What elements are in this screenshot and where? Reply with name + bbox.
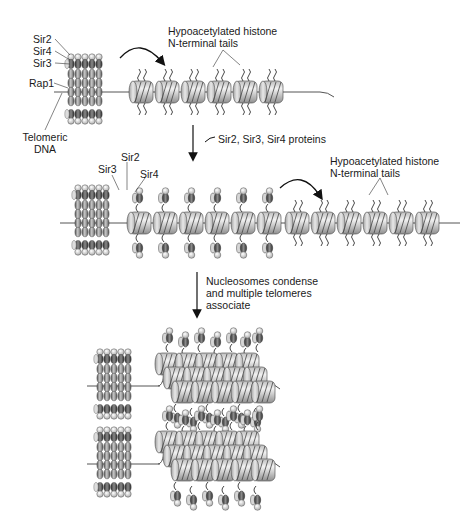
sir-complex <box>163 406 173 430</box>
sir-complex <box>163 328 173 352</box>
nucleosome-free <box>285 212 309 234</box>
sir-complex <box>185 234 195 258</box>
nucleosome <box>129 81 153 103</box>
label-step-condense-2: and multiple telomeres <box>206 287 312 299</box>
sir-complex <box>211 410 221 434</box>
sir-complex <box>133 188 143 212</box>
stage2-telomere <box>60 185 460 258</box>
sir-complex <box>263 234 273 258</box>
nucleosome-sir-bound <box>231 212 255 234</box>
label-sir2-stage1: Sir2 <box>33 33 52 45</box>
sir-complex <box>251 486 261 510</box>
label-sir3-stage2: Sir3 <box>98 163 117 175</box>
label-sir3-stage1: Sir3 <box>33 57 52 69</box>
label-sir4-stage2: Sir4 <box>140 168 159 180</box>
sir-complex <box>211 332 221 356</box>
nucleosome <box>181 81 205 103</box>
label-step-condense-1: Nucleosomes condense <box>206 275 318 287</box>
sir-complex <box>179 410 189 434</box>
label-hypoacetylated-tails-2b: N-terminal tails <box>330 167 400 179</box>
sir-complex <box>253 328 263 352</box>
sir-complex <box>159 234 169 258</box>
label-step-condense-3: associate <box>206 299 250 311</box>
sir-complex <box>195 406 205 430</box>
sir-complex <box>211 234 221 258</box>
sir-complex <box>241 332 251 356</box>
sir-complex <box>185 188 195 212</box>
telomere-rap1-array <box>72 185 109 255</box>
sir-complex <box>159 188 169 212</box>
stage1-telomere <box>54 54 334 124</box>
label-sir4-stage1: Sir4 <box>33 45 52 57</box>
nucleosome-sir-bound <box>205 212 229 234</box>
label-telomeric-dna-2: DNA <box>18 143 72 155</box>
label-hypoacetylated-tails-1b: N-terminal tails <box>168 37 238 49</box>
nucleosome <box>207 81 231 103</box>
label-telomeric-dna-1: Telomeric <box>18 131 72 143</box>
nucleosome-condensed <box>251 459 275 481</box>
nucleosome-free <box>311 212 335 234</box>
label-hypoacetylated-tails-2a: Hypoacetylated histone <box>330 155 439 167</box>
sir-complex <box>219 486 229 510</box>
nucleosome <box>259 81 283 103</box>
sir-complex <box>171 482 181 506</box>
sir-complex <box>237 234 247 258</box>
telomere-rap1-array <box>94 349 131 419</box>
sir-complex <box>263 188 273 212</box>
curved-arrow-icon <box>280 180 320 196</box>
nucleosome <box>233 81 257 103</box>
nucleosome <box>155 81 179 103</box>
telomere-rap1-array <box>94 427 131 497</box>
sir-complex <box>203 482 213 506</box>
nucleosome-sir-bound <box>179 212 203 234</box>
label-sir2-stage2: Sir2 <box>121 151 140 163</box>
nucleosome-free <box>415 212 439 234</box>
diagram-canvas <box>0 0 471 520</box>
nucleosome-free <box>389 212 413 234</box>
sir-complex <box>211 188 221 212</box>
sir-complex <box>195 328 205 352</box>
sir-complex <box>237 188 247 212</box>
sir-complex <box>227 406 237 430</box>
sir-complex <box>227 328 237 352</box>
sir-complex <box>179 332 189 356</box>
nucleosome-condensed <box>251 381 275 403</box>
nucleosome-free <box>363 212 387 234</box>
telomere-rap1-array <box>65 54 102 124</box>
curved-arrow-icon <box>120 48 162 62</box>
nucleosome-sir-bound <box>127 212 151 234</box>
sir-complex <box>133 234 143 258</box>
sir-complex <box>187 486 197 510</box>
label-rap1: Rap1 <box>29 77 54 89</box>
nucleosome-sir-bound <box>257 212 281 234</box>
nucleosome-free <box>337 212 361 234</box>
nucleosome-sir-bound <box>153 212 177 234</box>
label-hypoacetylated-tails-1a: Hypoacetylated histone <box>168 25 277 37</box>
sir-complex <box>235 482 245 506</box>
label-step-sir-proteins: Sir2, Sir3, Sir4 proteins <box>218 133 326 145</box>
